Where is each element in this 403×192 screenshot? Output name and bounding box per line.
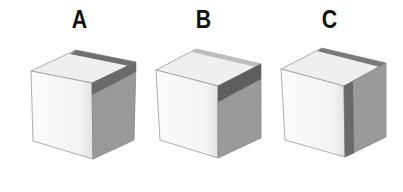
- cubes-illustration: [0, 0, 403, 192]
- cube-c: [281, 48, 386, 157]
- cube-c-right-dark-strip: [344, 81, 354, 157]
- cube-b-front-face: [156, 70, 218, 158]
- cube-a-front-face: [31, 71, 93, 159]
- cube-a: [31, 50, 136, 159]
- cube-b: [156, 49, 261, 158]
